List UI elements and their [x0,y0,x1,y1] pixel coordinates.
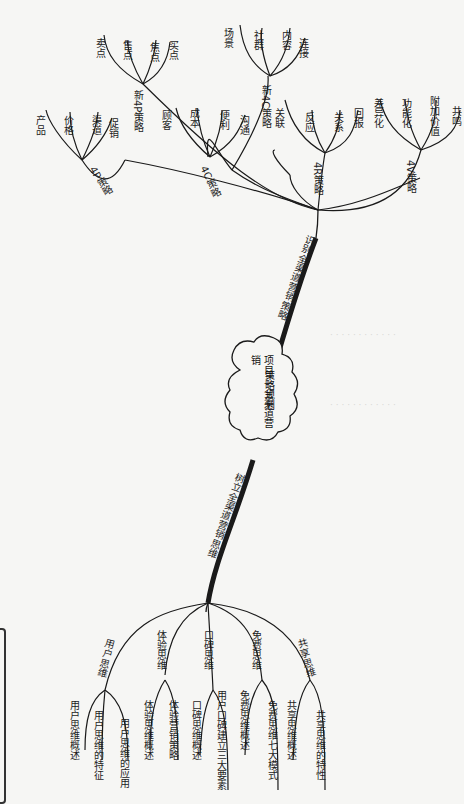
leaf-product: 产品 [34,115,45,135]
leaf-versatility: 功能化 [400,98,411,128]
leaf-vibration: 共鸣 [450,106,461,126]
leaf-value: 附加价值 [428,96,439,136]
leaf-selling-point-1: 卖点 [94,38,105,58]
leaf-buy-point: 买点 [167,40,178,60]
leaf-free-overview: 免费思维概述 [238,690,249,750]
leaf-promotion: 促销 [107,118,118,138]
leaf-variation: 差异化 [372,98,383,128]
leaf-cost: 成本 [188,108,199,128]
node-new-4p: 新4P策略 [132,90,143,132]
leaf-community: 社群 [252,30,263,50]
leaf-sharing-traits: 共享思维的特性 [314,710,325,780]
leaf-convenience: 便利 [218,110,229,130]
leaf-connection: 连接 [297,38,308,58]
node-4v: 4V策略 [405,160,416,193]
leaf-user-features: 用户思维的特征 [92,710,103,780]
leaf-reaction: 反应 [303,112,314,132]
leaf-customer: 顾客 [160,110,171,130]
leaf-price: 价格 [62,115,73,135]
leaf-experience-overview: 体验思维概述 [142,700,153,760]
leaf-user-overview: 用户思维概述 [68,700,79,760]
leaf-content: 内容 [280,30,291,50]
bleed-through-text: · · · · · · · · · · · · [330,330,396,340]
leaf-sharing-overview: 共享思维概述 [285,700,296,760]
node-free-thinking: 免费思维 [250,630,261,670]
bleed-through-text: · · · · · · · · · · · · [330,400,396,410]
leaf-communication: 沟通 [238,115,249,135]
leaf-relationship: 关系 [332,112,343,132]
node-4r: 4R策略 [312,162,323,195]
leaf-experience-strategy: 体验营销策略 [167,700,178,760]
leaf-reward: 回报 [352,108,363,128]
leaf-relevance: 关联 [273,108,284,128]
leaf-sale-point: 售点 [121,40,132,60]
node-new-4c: 新4C策略 [260,85,271,128]
leaf-focus-point: 焦点 [148,42,159,62]
leaf-user-application: 用户思维的应用 [118,718,129,788]
node-wom-thinking: 口碑思维 [202,630,213,670]
node-experience-thinking: 体验思维 [155,630,166,670]
page-edge-box [0,628,6,804]
center-node-line2: 策略规划 [262,370,275,430]
leaf-place: 渠道 [90,115,101,135]
leaf-wom-overview: 口碑思维概述 [190,700,201,760]
leaf-scene: 场景 [222,28,233,48]
leaf-wom-elements: 用户口碑建立三大要素 [215,690,226,790]
leaf-free-models: 免费思维七大模式 [266,700,277,780]
